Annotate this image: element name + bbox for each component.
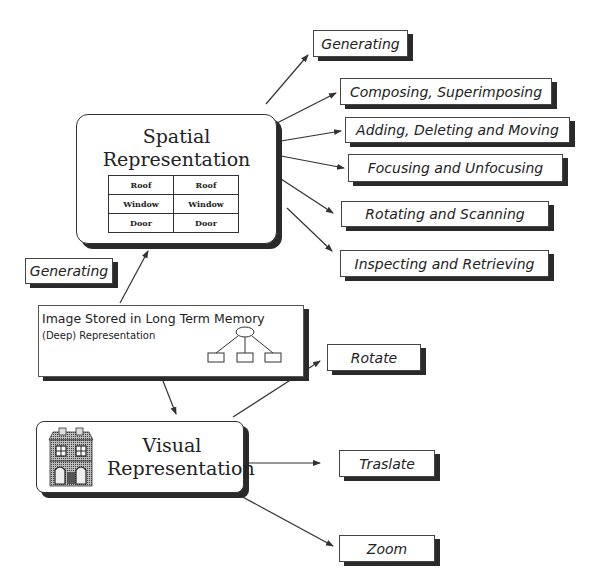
spatial-title-line2: Representation bbox=[77, 148, 276, 171]
ltm-title: Image Stored in Long Term Memory bbox=[42, 311, 265, 326]
table-cell: Door bbox=[109, 214, 174, 233]
arrow-to-inspecting bbox=[287, 208, 332, 251]
op-rotating-scanning: Rotating and Scanning bbox=[341, 201, 549, 227]
arrow-ltm-to-spatial bbox=[120, 251, 148, 303]
ltm-subtitle: (Deep) Representation bbox=[42, 330, 155, 341]
arrow-to-rotating-scanning bbox=[281, 179, 333, 213]
table-cell: Roof bbox=[174, 176, 239, 195]
table-cell: Door bbox=[174, 214, 239, 233]
spatial-title-line1: Spatial bbox=[77, 125, 276, 148]
long-term-memory-box: Image Stored in Long Term Memory (Deep) … bbox=[38, 305, 304, 377]
op-inspecting-retrieving: Inspecting and Retrieving bbox=[340, 250, 549, 277]
op-rotate: Rotate bbox=[327, 344, 421, 371]
spatial-table: Roof Roof Window Window Door Door bbox=[108, 175, 239, 233]
table-cell: Window bbox=[109, 195, 174, 214]
house-icon bbox=[45, 426, 97, 488]
op-traslate: Traslate bbox=[339, 450, 435, 477]
spatial-representation-box: Spatial Representation Roof Roof Window … bbox=[76, 114, 277, 244]
arrow-to-generating bbox=[266, 55, 308, 104]
table-row: Window Window bbox=[109, 195, 239, 214]
tree-hierarchy-icon bbox=[203, 326, 283, 364]
arrow-to-zoom bbox=[239, 495, 333, 546]
table-cell: Window bbox=[174, 195, 239, 214]
arrow-ltm-to-visual bbox=[163, 381, 176, 414]
op-focusing-unfocusing: Focusing and Unfocusing bbox=[348, 154, 563, 182]
arrow-to-focusing bbox=[281, 156, 344, 168]
arrow-to-composing bbox=[277, 93, 336, 123]
op-adding-deleting-moving: Adding, Deleting and Moving bbox=[345, 117, 570, 143]
op-zoom: Zoom bbox=[339, 535, 435, 562]
op-composing-superimposing: Composing, Superimposing bbox=[340, 78, 552, 105]
visual-representation-box: Visual Representation bbox=[36, 421, 244, 493]
table-cell: Roof bbox=[109, 176, 174, 195]
visual-title-line1: Visual bbox=[107, 434, 237, 457]
op-generating-left: Generating bbox=[25, 258, 113, 284]
op-generating: Generating bbox=[313, 30, 408, 57]
visual-title-line2: Representation bbox=[107, 457, 237, 480]
table-row: Door Door bbox=[109, 214, 239, 233]
arrow-to-adding bbox=[281, 131, 341, 141]
table-row: Roof Roof bbox=[109, 176, 239, 195]
